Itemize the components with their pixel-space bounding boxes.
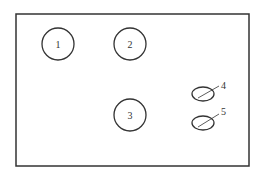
circle-2-label: 2 xyxy=(128,39,133,50)
ellipse-4: 4 xyxy=(192,80,226,101)
diagram-canvas: 1 2 3 4 5 xyxy=(0,0,262,178)
frame-rectangle xyxy=(16,14,249,166)
circle-1: 1 xyxy=(42,28,74,60)
circle-2: 2 xyxy=(114,28,146,60)
ellipse-4-label: 4 xyxy=(221,80,226,91)
ellipse-5: 5 xyxy=(192,106,226,130)
circle-3-label: 3 xyxy=(128,110,133,121)
circle-1-label: 1 xyxy=(56,39,61,50)
circle-3: 3 xyxy=(114,99,146,131)
ellipse-5-label: 5 xyxy=(221,106,226,117)
